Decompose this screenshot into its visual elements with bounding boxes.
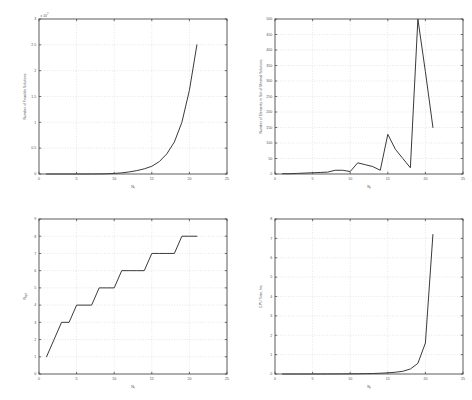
y-tick-label: 3	[270, 314, 272, 318]
x-tick-label: 5	[76, 177, 78, 181]
y-tick-label: 0	[270, 172, 272, 176]
y-tick-label: 6	[270, 256, 272, 260]
x-tick-label: 25	[461, 377, 465, 381]
x-axis-title: Nt	[131, 385, 135, 390]
x-tick-label: 5	[312, 177, 314, 181]
x-tick-label: 25	[461, 177, 465, 181]
x-tick-label: 0	[274, 377, 276, 381]
y-tick-label: 6	[34, 269, 36, 273]
y-tick-label: 300	[266, 79, 272, 83]
y-tick-label: 7	[270, 237, 272, 241]
y-tick-label: 0	[34, 172, 36, 176]
x-axis-title: Nt	[131, 185, 135, 190]
y-tick-label: 5	[270, 275, 272, 279]
y-tick-label: 150	[266, 126, 272, 130]
y-tick-label: 3	[34, 321, 36, 325]
x-tick-label: 10	[112, 377, 116, 381]
y-tick-label: 1	[34, 355, 36, 359]
x-tick-label: 10	[348, 177, 352, 181]
x-tick-label: 20	[187, 177, 191, 181]
y-tick-label: 5	[34, 286, 36, 290]
x-tick-label: 15	[150, 377, 154, 381]
y-tick-label: 500	[266, 17, 272, 21]
y-tick-label: 8	[270, 217, 272, 221]
plot-top-right: 0510152025050100150200250300350400450500…	[236, 0, 472, 200]
subplot-bottom-left: 05101520250123456789NtNopt	[0, 200, 236, 400]
x-tick-label: 20	[423, 177, 427, 181]
y-tick-label: 9	[34, 217, 36, 221]
x-tick-label: 10	[348, 377, 352, 381]
y-tick-label: 1	[34, 121, 36, 125]
x-tick-label: 5	[312, 377, 314, 381]
x-tick-label: 0	[38, 377, 40, 381]
subplot-top-right: 0510152025050100150200250300350400450500…	[236, 0, 472, 200]
plot-bottom-right: 0510152025012345678NtCPU Time, hrs	[236, 200, 472, 400]
y-axis-title: Number of Feasible Solutions	[23, 73, 27, 119]
y-tick-label: 1	[270, 353, 272, 357]
x-axis-title: Nt	[367, 385, 371, 390]
x-tick-label: 10	[112, 177, 116, 181]
plot-bottom-left: 05101520250123456789NtNopt	[0, 200, 236, 400]
x-tick-label: 20	[187, 377, 191, 381]
y-tick-label: 250	[266, 95, 272, 99]
plot-top-left: 051015202500.511.522.53x 107NtNumber of …	[0, 0, 236, 200]
y-tick-label: 100	[266, 141, 272, 145]
y-tick-label: 7	[34, 252, 36, 256]
y-tick-label: 0.5	[31, 146, 36, 150]
y-tick-label: 2	[34, 338, 36, 342]
y-tick-label: 400	[266, 48, 272, 52]
data-curve	[47, 236, 197, 357]
x-tick-label: 0	[38, 177, 40, 181]
y-axis-exponent: x 107	[41, 12, 49, 17]
x-tick-label: 0	[274, 177, 276, 181]
x-tick-label: 25	[225, 177, 229, 181]
data-curve	[283, 235, 433, 375]
y-tick-label: 0	[270, 372, 272, 376]
x-tick-label: 5	[76, 377, 78, 381]
y-tick-label: 2.5	[31, 43, 36, 47]
y-tick-label: 450	[266, 33, 272, 37]
y-tick-label: 8	[34, 235, 36, 239]
x-tick-label: 20	[423, 377, 427, 381]
y-tick-label: 350	[266, 64, 272, 68]
y-tick-label: 1.5	[31, 95, 36, 99]
y-axis-title: Number of Elements in Set of Minimal Sol…	[259, 59, 263, 133]
subplot-top-left: 051015202500.511.522.53x 107NtNumber of …	[0, 0, 236, 200]
y-tick-label: 3	[34, 17, 36, 21]
x-tick-label: 25	[225, 377, 229, 381]
y-tick-label: 4	[270, 295, 272, 299]
y-tick-label: 2	[270, 334, 272, 338]
subplot-bottom-right: 0510152025012345678NtCPU Time, hrs	[236, 200, 472, 400]
x-tick-label: 15	[150, 177, 154, 181]
y-tick-label: 4	[34, 303, 36, 307]
y-tick-label: 0	[34, 372, 36, 376]
figure-canvas: 051015202500.511.522.53x 107NtNumber of …	[0, 0, 472, 400]
y-axis-title: CPU Time, hrs	[259, 285, 263, 308]
y-tick-label: 2	[34, 69, 36, 73]
data-curve	[47, 45, 197, 174]
y-tick-label: 200	[266, 110, 272, 114]
x-tick-label: 15	[386, 177, 390, 181]
x-axis-title: Nt	[367, 185, 371, 190]
x-tick-label: 15	[386, 377, 390, 381]
y-tick-label: 50	[268, 157, 272, 161]
y-axis-title: Nopt	[23, 293, 28, 299]
